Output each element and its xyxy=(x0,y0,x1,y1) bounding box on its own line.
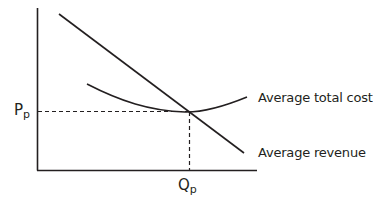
atc-label: Average total cost xyxy=(258,91,373,104)
ar-label: Average revenue xyxy=(258,146,366,159)
quantity-label-main: Q xyxy=(178,176,190,194)
price-label-sub: p xyxy=(23,108,30,121)
quantity-label: Qp xyxy=(178,178,197,195)
average-revenue-line xyxy=(59,14,244,153)
quantity-label-sub: p xyxy=(190,183,197,196)
average-total-cost-curve xyxy=(87,84,247,112)
price-label-main: P xyxy=(14,101,23,119)
price-label: Pp xyxy=(14,103,30,120)
